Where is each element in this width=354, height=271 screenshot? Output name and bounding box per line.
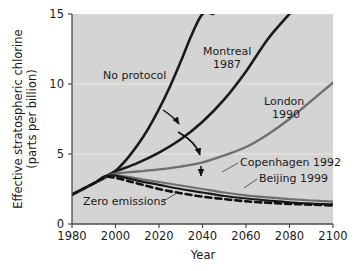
chlorine-projection-chart: 1980200020202040206020802100051015 Year …: [0, 0, 354, 271]
y-axis-title-line1: Effective stratospheric chlorine: [11, 29, 25, 208]
y-tick-label-0: 0: [57, 217, 64, 231]
y-tick-label-15: 15: [49, 7, 64, 21]
annotation-london-year: 1990: [272, 108, 300, 121]
annotation-beijing: Beijing 1999: [259, 172, 328, 185]
x-axis-title: Year: [190, 248, 216, 262]
x-tick-label-2040: 2040: [188, 229, 217, 243]
y-tick-label-5: 5: [57, 147, 64, 161]
x-tick-label-2100: 2100: [318, 229, 347, 243]
y-axis-title-line2: (parts per billion): [25, 69, 39, 168]
chart-figure: 1980200020202040206020802100051015 Year …: [0, 0, 354, 271]
y-tick-label-10: 10: [49, 77, 64, 91]
x-tick-label-2080: 2080: [275, 229, 304, 243]
annotation-zero-emissions: Zero emissions: [83, 195, 167, 208]
annotation-montreal-year: 1987: [213, 58, 241, 71]
annotation-no-protocol: No protocol: [103, 69, 166, 82]
annotation-montreal: Montreal: [203, 45, 251, 58]
x-tick-label-1980: 1980: [57, 229, 86, 243]
x-tick-label-2000: 2000: [101, 229, 130, 243]
x-tick-label-2060: 2060: [231, 229, 260, 243]
x-tick-label-2020: 2020: [144, 229, 173, 243]
annotation-london: London: [264, 95, 304, 108]
annotation-copenhagen: Copenhagen 1992: [240, 156, 341, 169]
